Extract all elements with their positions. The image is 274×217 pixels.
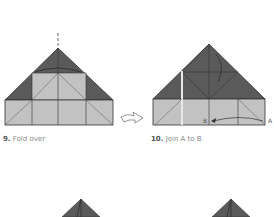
step-number: 9.	[3, 135, 11, 143]
step-10-figure: B A	[153, 44, 273, 125]
light-base-rect	[5, 100, 113, 125]
step-text: Fold over	[13, 135, 45, 143]
turn-over-arrow-icon	[121, 112, 143, 123]
step-9-caption: 9. Fold over	[3, 136, 45, 143]
label-a: A	[268, 117, 273, 124]
step-text: Join A to B	[166, 135, 202, 143]
white-edge-strip	[181, 71, 183, 125]
label-b: B	[203, 117, 207, 124]
step-number: 10.	[151, 135, 163, 143]
step-9-figure	[5, 33, 113, 125]
light-inner-square	[32, 73, 86, 100]
step-12-figure-partial	[212, 199, 250, 217]
step-10-caption: 10. Join A to B	[151, 136, 202, 143]
step-11-figure-partial	[62, 199, 100, 217]
origami-diagram: B A	[0, 0, 274, 217]
